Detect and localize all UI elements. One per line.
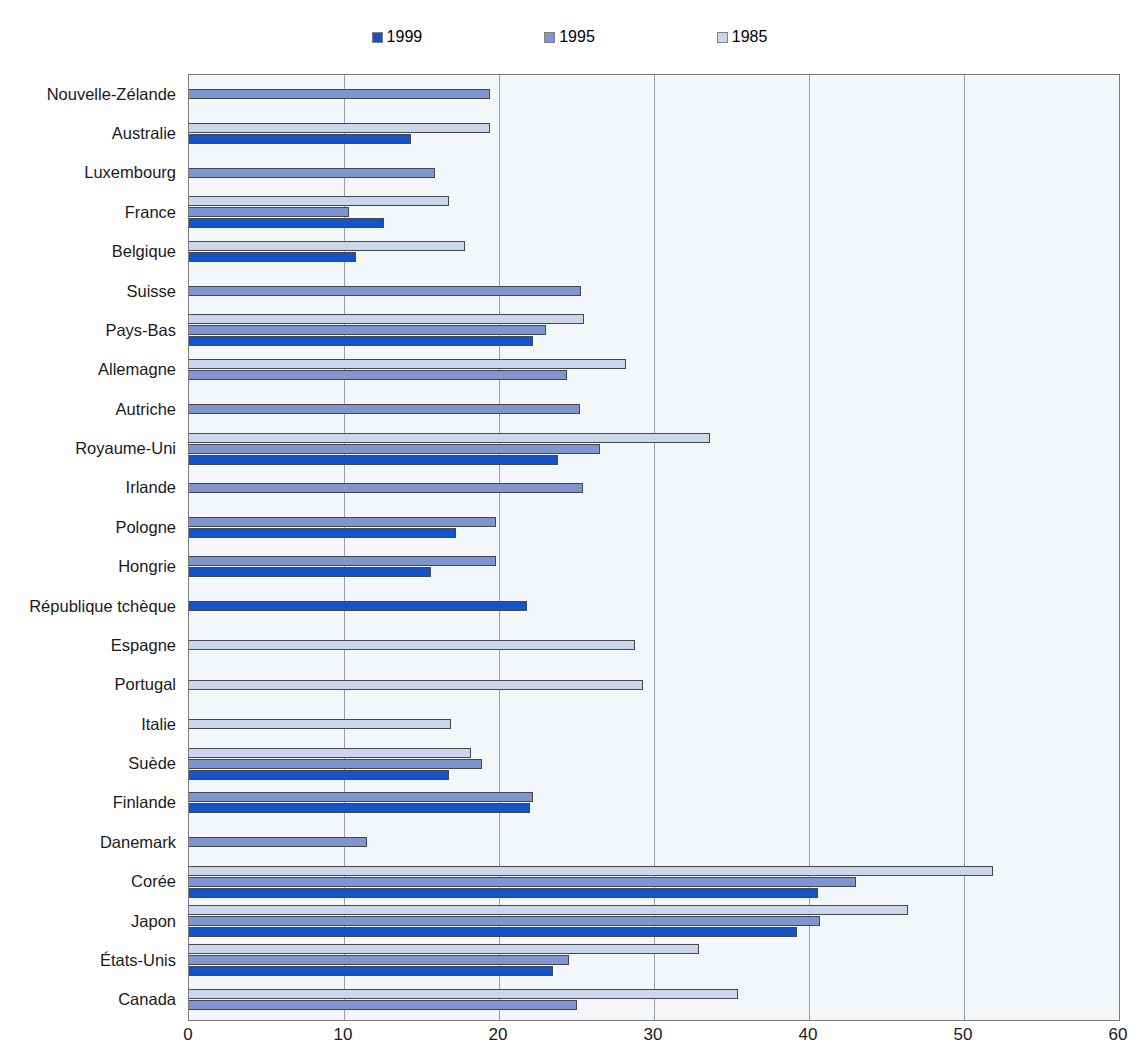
- bar-group: [189, 744, 1119, 783]
- legend-swatch-1999: [372, 32, 383, 43]
- y-tick-label: Pologne: [115, 517, 176, 536]
- bar-1995[interactable]: [189, 325, 546, 335]
- y-tick-label: Corée: [131, 872, 176, 891]
- bar-1985[interactable]: [189, 241, 465, 251]
- chart-title-clipped: [0, 0, 1139, 14]
- bar-1995[interactable]: [189, 370, 567, 380]
- x-tick-label-0: 0: [183, 1025, 192, 1045]
- bar-1985[interactable]: [189, 433, 710, 443]
- bar-group: [189, 784, 1119, 823]
- x-tick-label-60: 60: [1109, 1025, 1128, 1045]
- bar-group: [189, 114, 1119, 153]
- x-tick-label-50: 50: [954, 1025, 973, 1045]
- y-tick-label: Italie: [141, 714, 176, 733]
- bar-1985[interactable]: [189, 748, 471, 758]
- y-axis-labels: Nouvelle-ZélandeAustralieLuxembourgFranc…: [0, 74, 182, 1019]
- legend-swatch-1995: [544, 32, 555, 43]
- bar-1995[interactable]: [189, 483, 583, 493]
- bar-1995[interactable]: [189, 792, 533, 802]
- x-axis-labels: 0102030405060: [0, 1025, 1139, 1055]
- bar-1999[interactable]: [189, 336, 533, 346]
- y-tick-label: Japon: [131, 911, 176, 930]
- bar-1995[interactable]: [189, 444, 600, 454]
- bar-1985[interactable]: [189, 314, 584, 324]
- bar-1995[interactable]: [189, 168, 435, 178]
- bar-group: [189, 705, 1119, 744]
- bar-1999[interactable]: [189, 601, 527, 611]
- bar-1995[interactable]: [189, 837, 367, 847]
- bar-1995[interactable]: [189, 556, 496, 566]
- bar-1985[interactable]: [189, 640, 635, 650]
- bar-1999[interactable]: [189, 927, 797, 937]
- legend-label-1999: 1999: [387, 29, 423, 45]
- bar-1999[interactable]: [189, 528, 456, 538]
- bar-1985[interactable]: [189, 866, 993, 876]
- y-tick-label: Irlande: [126, 478, 176, 497]
- y-tick-label: Suisse: [126, 281, 176, 300]
- bar-group: [189, 666, 1119, 705]
- bar-1999[interactable]: [189, 134, 411, 144]
- legend-item-1999[interactable]: 1999: [372, 29, 423, 45]
- bar-1995[interactable]: [189, 916, 820, 926]
- y-tick-label: Danemark: [100, 832, 176, 851]
- bar-group: [189, 508, 1119, 547]
- bar-1999[interactable]: [189, 888, 818, 898]
- bar-1999[interactable]: [189, 770, 449, 780]
- bar-1999[interactable]: [189, 966, 553, 976]
- x-tick-label-10: 10: [334, 1025, 353, 1045]
- bar-group: [189, 823, 1119, 862]
- y-tick-label: Luxembourg: [84, 163, 176, 182]
- bar-group: [189, 429, 1119, 468]
- y-tick-label: Finlande: [113, 793, 176, 812]
- bar-1985[interactable]: [189, 719, 451, 729]
- y-tick-label: Nouvelle-Zélande: [47, 84, 176, 103]
- bar-group: [189, 311, 1119, 350]
- bar-1999[interactable]: [189, 567, 431, 577]
- legend-label-1985: 1985: [732, 29, 768, 45]
- bar-1995[interactable]: [189, 89, 490, 99]
- bar-1999[interactable]: [189, 455, 558, 465]
- bar-1995[interactable]: [189, 286, 581, 296]
- bar-1995[interactable]: [189, 207, 349, 217]
- bar-group: [189, 548, 1119, 587]
- y-tick-label: Belgique: [112, 242, 176, 261]
- bar-1985[interactable]: [189, 123, 490, 133]
- bar-rows: [189, 75, 1119, 1020]
- x-tick-label-40: 40: [799, 1025, 818, 1045]
- bar-1985[interactable]: [189, 905, 908, 915]
- bar-1985[interactable]: [189, 989, 738, 999]
- bar-1995[interactable]: [189, 955, 569, 965]
- y-tick-label: Hongrie: [118, 557, 176, 576]
- bar-group: [189, 390, 1119, 429]
- legend-item-1985[interactable]: 1985: [717, 29, 768, 45]
- chart-legend: 1999 1995 1985: [0, 26, 1139, 48]
- bar-group: [189, 469, 1119, 508]
- bar-1995[interactable]: [189, 404, 580, 414]
- bar-1995[interactable]: [189, 759, 482, 769]
- bar-1985[interactable]: [189, 680, 643, 690]
- y-tick-label: France: [125, 202, 176, 221]
- y-tick-label: Allemagne: [98, 360, 176, 379]
- bar-1985[interactable]: [189, 196, 449, 206]
- bar-group: [189, 863, 1119, 902]
- bar-group: [189, 272, 1119, 311]
- bar-1999[interactable]: [189, 803, 530, 813]
- bar-1999[interactable]: [189, 218, 384, 228]
- bar-group: [189, 941, 1119, 980]
- bar-1995[interactable]: [189, 877, 856, 887]
- bar-1999[interactable]: [189, 252, 356, 262]
- bar-1985[interactable]: [189, 944, 699, 954]
- y-tick-label: Suède: [128, 754, 176, 773]
- plot-area: [188, 74, 1120, 1021]
- bar-1985[interactable]: [189, 359, 626, 369]
- legend-swatch-1985: [717, 32, 728, 43]
- bar-group: [189, 75, 1119, 114]
- y-tick-label: République tchèque: [29, 596, 176, 615]
- bar-group: [189, 233, 1119, 272]
- bar-group: [189, 587, 1119, 626]
- bar-1995[interactable]: [189, 517, 496, 527]
- bar-1995[interactable]: [189, 1000, 577, 1010]
- y-tick-label: Australie: [112, 124, 176, 143]
- legend-item-1995[interactable]: 1995: [544, 29, 595, 45]
- bar-group: [189, 193, 1119, 232]
